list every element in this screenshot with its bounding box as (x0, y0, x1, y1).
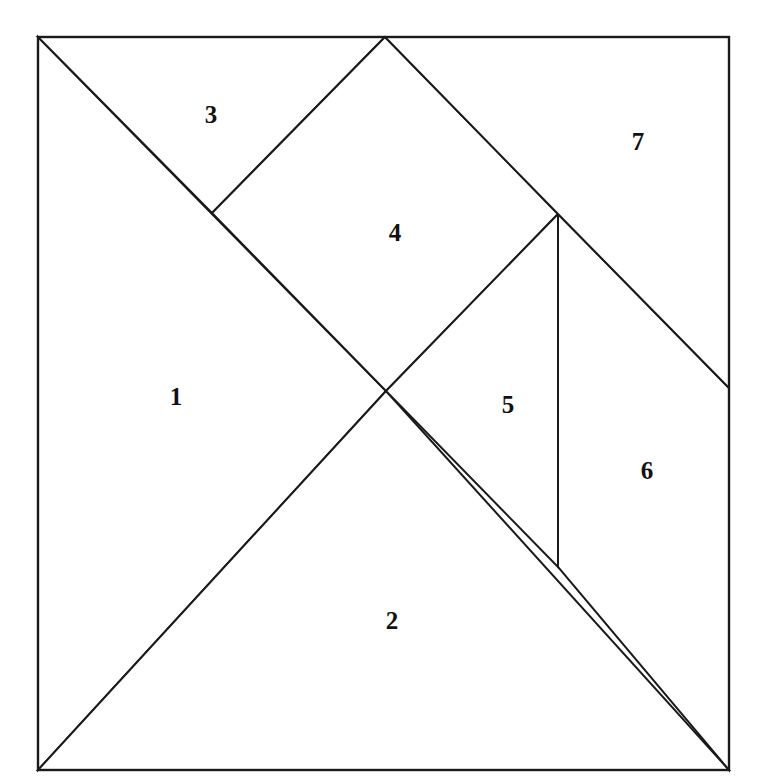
piece-label-1: 1 (170, 383, 183, 410)
piece-label-6: 6 (641, 457, 654, 484)
piece-label-4: 4 (389, 219, 402, 246)
tangram-diagram: 1234567 (0, 0, 768, 778)
pieces-layer (38, 37, 729, 770)
piece-label-7: 7 (632, 128, 645, 155)
piece-label-3: 3 (205, 101, 218, 128)
piece-label-5: 5 (502, 391, 515, 418)
piece-label-2: 2 (386, 607, 399, 634)
